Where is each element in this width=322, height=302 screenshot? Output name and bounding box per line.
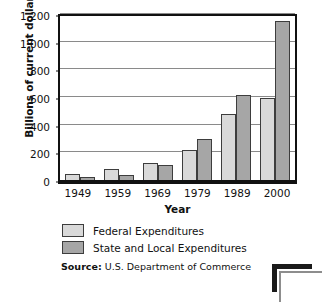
y-axis-tick-label: 0 bbox=[43, 176, 50, 188]
legend-item-federal: Federal Expenditures bbox=[62, 222, 297, 239]
legend-swatch-federal-icon bbox=[62, 224, 84, 237]
y-axis-tick-label: 1,200 bbox=[20, 10, 50, 22]
bar-federal-1979 bbox=[182, 150, 197, 180]
bar-group bbox=[217, 16, 256, 180]
bar-state-local-1979 bbox=[197, 139, 212, 180]
x-axis-tick-label: 1949 bbox=[58, 187, 98, 199]
x-axis-title: Year bbox=[58, 203, 297, 215]
bar-state-local-2000 bbox=[275, 21, 290, 180]
x-axis-tick-label: 1989 bbox=[217, 187, 257, 199]
x-axis-tick-label: 1959 bbox=[98, 187, 138, 199]
source-note: Source: U.S. Department of Commerce bbox=[61, 261, 251, 272]
legend-label-federal: Federal Expenditures bbox=[93, 225, 204, 237]
y-axis-tick-label: 400 bbox=[30, 121, 50, 133]
x-axis-tick-label: 1969 bbox=[138, 187, 178, 199]
bar-federal-1959 bbox=[104, 169, 119, 180]
bar-state-local-1989 bbox=[236, 95, 251, 180]
bar-federal-1969 bbox=[143, 163, 158, 180]
bar-federal-1989 bbox=[221, 114, 236, 180]
bar-group bbox=[60, 16, 99, 180]
axis-baseline bbox=[60, 180, 295, 182]
y-axis-tick-label: 600 bbox=[30, 93, 50, 105]
legend-swatch-state-local-icon bbox=[62, 241, 84, 254]
x-axis-tick-labels: 194919591969197919892000 bbox=[58, 187, 297, 199]
legend-item-state-local: State and Local Expenditures bbox=[62, 239, 297, 256]
page-corner-mark bbox=[272, 264, 312, 292]
y-axis-tick-label: 800 bbox=[30, 65, 50, 77]
gridline bbox=[60, 13, 295, 14]
y-axis-tick-label: 1,000 bbox=[20, 38, 50, 50]
bar-groups bbox=[60, 16, 295, 180]
bar-group bbox=[138, 16, 177, 180]
bar-state-local-1969 bbox=[158, 165, 173, 180]
y-axis-tick-label: 200 bbox=[30, 148, 50, 160]
bar-group bbox=[178, 16, 217, 180]
plot-area bbox=[58, 14, 297, 184]
bar-group bbox=[256, 16, 295, 180]
source-text: U.S. Department of Commerce bbox=[105, 261, 251, 272]
legend-label-state-local: State and Local Expenditures bbox=[93, 242, 247, 254]
x-axis-tick-label: 1979 bbox=[177, 187, 217, 199]
source-prefix: Source: bbox=[61, 261, 102, 272]
bar-group bbox=[99, 16, 138, 180]
chart-legend: Federal Expenditures State and Local Exp… bbox=[62, 222, 297, 256]
bar-federal-2000 bbox=[260, 98, 275, 180]
x-axis-tick-label: 2000 bbox=[257, 187, 297, 199]
y-axis-tick-labels: 02004006008001,0001,200 bbox=[8, 14, 54, 184]
